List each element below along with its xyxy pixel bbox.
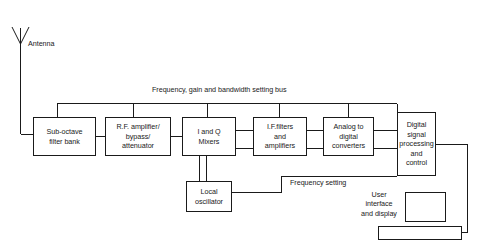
block-sub-octave-filter-bank-label: Sub-octave filter bank <box>46 127 84 146</box>
frequency-setting-label: Frequency setting <box>290 178 346 187</box>
wire-lo-to-mixers <box>200 156 207 181</box>
block-if-filters-amplifiers[interactable]: I.F.filters and amplifiers <box>253 117 307 156</box>
wire-adc-to-dsp <box>374 131 397 149</box>
antenna-symbol <box>12 27 29 134</box>
block-sub-octave-filter-bank[interactable]: Sub-octave filter bank <box>33 117 96 156</box>
wire-control-bus <box>57 104 398 118</box>
block-local-oscillator[interactable]: Local oscillator <box>186 181 232 212</box>
block-digital-signal-processing-label: Digital signal processing and control <box>398 120 434 167</box>
control-bus-label: Frequency, gain and bandwidth setting bu… <box>152 85 286 94</box>
block-rf-amplifier[interactable]: R.F. amplifier/ bypass/ attenuator <box>105 117 171 156</box>
block-digital-signal-processing[interactable]: Digital signal processing and control <box>397 112 436 176</box>
block-rf-amplifier-label: R.F. amplifier/ bypass/ attenuator <box>115 122 160 150</box>
block-diagram: Sub-octave filter bank R.F. amplifier/ b… <box>0 0 488 248</box>
wire-iffilters-to-adc <box>307 131 323 149</box>
block-analog-to-digital-converters[interactable]: Analog to digital converters <box>323 117 374 156</box>
block-analog-to-digital-converters-label: Analog to digital converters <box>331 122 366 150</box>
antenna-label: Antenna <box>28 39 54 48</box>
block-if-filters-amplifiers-label: I.F.filters and amplifiers <box>264 122 296 150</box>
block-local-oscillator-label: Local oscillator <box>194 187 224 206</box>
wire-mixers-to-iffilters <box>236 131 253 149</box>
display-monitor[interactable] <box>405 192 446 222</box>
block-i-and-q-mixers[interactable]: I and Q Mixers <box>182 117 236 156</box>
user-interface-label: User interface and display <box>355 190 403 218</box>
block-i-and-q-mixers-label: I and Q Mixers <box>196 127 221 146</box>
keyboard[interactable] <box>378 226 462 240</box>
